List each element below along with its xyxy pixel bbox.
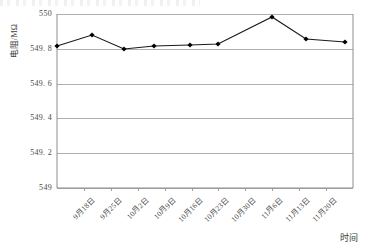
y-tick-label: 550	[39, 9, 52, 18]
data-point-marker	[342, 39, 347, 44]
data-point-marker	[89, 32, 94, 37]
data-point-marker	[151, 43, 156, 48]
x-axis-title: 时间	[340, 231, 358, 244]
series-line-resistance	[57, 17, 345, 49]
series-markers-group	[54, 14, 347, 51]
y-tick-label: 549. 4	[30, 113, 52, 122]
data-point-marker	[121, 46, 126, 51]
y-tick-label: 549. 8	[30, 44, 52, 53]
data-point-marker	[54, 43, 59, 48]
y-tick-label: 549	[39, 183, 52, 192]
y-tick-label: 549. 2	[30, 148, 52, 157]
data-point-marker	[215, 41, 220, 46]
gridlines-group	[57, 15, 353, 189]
data-point-marker	[187, 42, 192, 47]
y-tick-label: 549. 6	[30, 79, 52, 88]
resistance-time-line-chart: 电阻/MΩ 550549. 8549. 6549. 4549. 2549 9月1…	[0, 0, 366, 248]
